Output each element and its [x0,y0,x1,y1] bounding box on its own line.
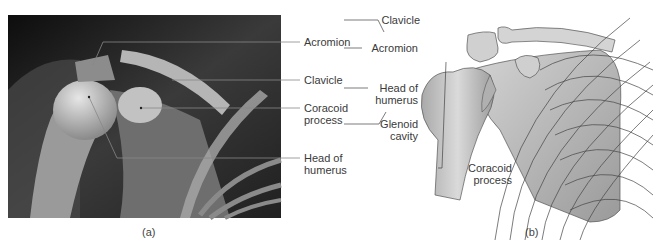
xray-image [0,0,330,252]
label-line: cavity [370,130,418,142]
label-line: Head of [370,82,418,94]
label-line: Coracoid [460,162,512,174]
caption-a: (a) [142,226,155,238]
panel-b-illustration: Clavicle Acromion Head of humerus Glenoi… [320,0,653,252]
label-line: process [460,174,512,186]
label-b-glenoid: Glenoid cavity [370,118,418,142]
label-line: humerus [370,94,418,106]
label-b-head-humerus: Head of humerus [370,82,418,106]
label-b-coracoid: Coracoid process [460,162,512,186]
label-line: Glenoid [370,118,418,130]
label-b-acromion: Acromion [368,42,418,54]
label-b-clavicle: Clavicle [380,14,420,26]
caption-b: (b) [525,226,538,238]
panel-a-xray: Acromion Clavicle Coracoid process Head … [0,0,330,252]
